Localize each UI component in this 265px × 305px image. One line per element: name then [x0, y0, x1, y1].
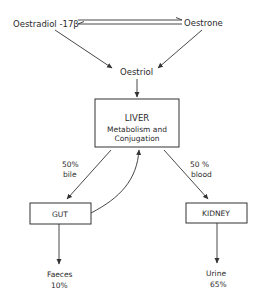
bile-route: bile — [63, 170, 77, 179]
liver-line2: Conjugation — [114, 134, 159, 143]
gut-label: GUT — [52, 210, 68, 219]
equilibrium-arrows — [78, 20, 182, 24]
faeces-label: Faeces — [47, 270, 73, 279]
arrow-oestradiol-to-oestriol — [55, 30, 112, 68]
oestrone-label: Oestrone — [184, 18, 223, 28]
liver-box: LIVER Metabolism and Conjugation — [95, 99, 179, 147]
liver-title: LIVER — [125, 113, 149, 123]
blood-percent: 50 % — [190, 160, 209, 169]
oestrogen-metabolism-diagram: Oestradiol -17β Oestrone Oestriol LIVER … — [0, 0, 265, 305]
liver-line1: Metabolism and — [107, 125, 167, 134]
bile-percent: 50% — [62, 160, 79, 169]
urine-percent: 65% — [210, 280, 227, 289]
urine-label: Urine — [206, 269, 226, 278]
oestriol-label: Oestriol — [120, 67, 153, 77]
gut-box: GUT — [30, 203, 91, 224]
oestradiol-label: Oestradiol -17β — [13, 19, 79, 29]
arrow-oestrone-to-oestriol — [158, 30, 202, 68]
arrow-gut-to-liver — [91, 150, 139, 213]
kidney-label: KIDNEY — [202, 209, 230, 218]
blood-route: blood — [191, 170, 212, 179]
kidney-box: KIDNEY — [186, 203, 247, 223]
faeces-percent: 10% — [51, 281, 68, 290]
